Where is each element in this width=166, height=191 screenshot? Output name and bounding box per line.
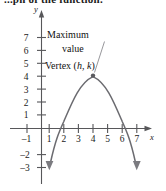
y-tick-label-7: 7	[24, 33, 29, 43]
x-tick-label-5: 5	[105, 134, 110, 144]
x-tick-label-1: 1	[47, 134, 52, 144]
y-tick-label-neg2: –2	[19, 150, 30, 160]
vertex-annotation-suffix: )	[91, 60, 94, 72]
vertex-annotation: Vertex (h, k)	[45, 60, 95, 72]
x-tick-label-6: 6	[120, 134, 125, 144]
y-axis-label: y	[33, 4, 38, 14]
y-tick-label-2: 2	[24, 98, 29, 108]
y-tick-label-3: 3	[24, 85, 29, 95]
x-tick-label-4: 4	[91, 134, 96, 144]
maximum-value-annotation-line1: Maximum	[47, 29, 89, 40]
svg-text:Vertex (h, k): Vertex (h, k)	[45, 60, 95, 72]
x-axis-label: x	[149, 132, 154, 142]
x-tick-label-3: 3	[76, 134, 81, 144]
x-tick-label-7: 7	[134, 134, 139, 144]
y-tick-label-1: 1	[24, 110, 29, 120]
y-tick-label-6: 6	[24, 46, 29, 56]
y-tick-label-neg3: –3	[19, 163, 30, 173]
vertex-annotation-prefix: Vertex (	[45, 60, 78, 72]
y-tick-label-4: 4	[24, 72, 29, 82]
y-tick-label-5: 5	[24, 59, 29, 69]
parabola-figure: ...ph of the function.	[0, 0, 166, 191]
x-tick-label-neg1: –1	[21, 134, 32, 144]
text-layer: y x 7 6 5 4 3 2 1 –2 –3 –1 1 2 3 4 5 6 7…	[0, 0, 166, 191]
x-tick-label-2: 2	[61, 134, 66, 144]
maximum-value-annotation-line2: value	[62, 43, 84, 54]
